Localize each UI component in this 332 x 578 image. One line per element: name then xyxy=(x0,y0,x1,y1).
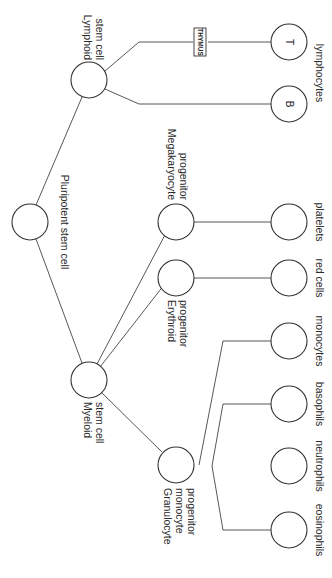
t-cell-letter: T xyxy=(284,39,295,45)
erythroid-label-line2: progenitor xyxy=(178,300,190,348)
cell-nodes xyxy=(12,24,307,548)
platelets-circle xyxy=(271,204,307,240)
edge-myeloid-megakaryocyte xyxy=(97,233,166,364)
monocytes-label: monocytes xyxy=(314,316,326,367)
megakaryocyte-label-line2: progenitor xyxy=(178,153,190,201)
basophils-label: basophils xyxy=(314,382,326,426)
lymphoid-label-line2: stem cell xyxy=(94,19,106,60)
myeloid-label-line2: stem cell xyxy=(94,402,106,443)
b-cell-letter: B xyxy=(284,101,295,108)
thymus-label: THYMUS xyxy=(197,28,204,56)
thymus-box: THYMUS xyxy=(194,28,206,56)
edge-granulocyte-monocytes xyxy=(199,341,271,465)
edge-granulocyte-branch xyxy=(212,404,223,530)
red-cells-label: red cells xyxy=(314,258,326,297)
megakaryocyte-label-line1: Megakaryocyte xyxy=(166,129,178,200)
erythroid-label-line1: Erythroid xyxy=(166,300,178,342)
erythroid-cell-circle xyxy=(158,260,194,296)
monocytes-circle xyxy=(271,323,307,359)
megakaryocyte-cell-circle xyxy=(158,204,194,240)
neutrophils-circle xyxy=(271,448,307,484)
granulocyte-label-line3: progenitor xyxy=(186,488,198,536)
edge-pluripotent-lymphoid xyxy=(36,97,82,205)
eosinophils-label: eosinophils xyxy=(314,504,326,557)
connector-lines xyxy=(36,42,271,530)
hematopoiesis-diagram: THYMUS T B Pluripotent stem cell Lymphoi… xyxy=(0,0,332,578)
platelets-label: platelets xyxy=(314,202,326,241)
myeloid-label-line1: Myeloid xyxy=(82,402,94,438)
granulocyte-cell-circle xyxy=(158,447,194,483)
granulocyte-label-line1: Granulocyte xyxy=(162,488,174,545)
edge-lymphoid-b xyxy=(105,89,271,104)
edge-pluripotent-myeloid xyxy=(36,239,82,363)
red-cells-circle xyxy=(271,260,307,296)
edge-myeloid-granulocyte xyxy=(101,392,162,452)
lymphoid-cell-circle xyxy=(71,62,107,98)
edge-lymphoid-thymus xyxy=(105,42,193,71)
pluripotent-cell-circle xyxy=(12,204,48,240)
neutrophils-label: neutrophils xyxy=(314,440,326,491)
granulocyte-label-line2: monocyte xyxy=(174,488,186,534)
lymphoid-label-line1: Lymphoid xyxy=(82,15,94,60)
lymphocytes-label: lymphocytes xyxy=(314,44,326,102)
basophils-circle xyxy=(271,386,307,422)
myeloid-cell-circle xyxy=(71,362,107,398)
eosinophils-circle xyxy=(271,512,307,548)
pluripotent-label: Pluripotent stem cell xyxy=(59,175,71,270)
